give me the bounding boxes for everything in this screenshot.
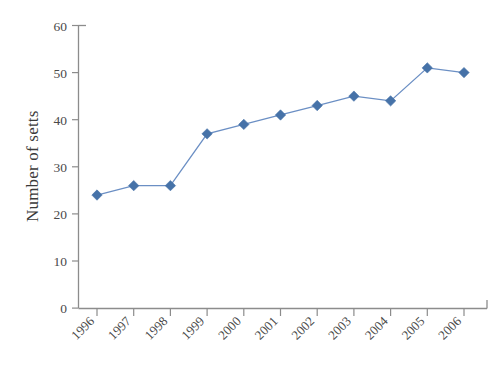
y-tick-label-30: 30 [54, 160, 68, 175]
y-tick-label-0: 0 [60, 301, 67, 316]
chart-figure: Number of setts 60 50 40 30 20 10 [0, 0, 501, 369]
chart-background [0, 0, 501, 369]
y-axis-title-text: Number of setts [23, 110, 42, 222]
y-tick-label-10: 10 [54, 254, 68, 269]
y-axis-title: Number of setts [23, 110, 42, 222]
y-tick-label-60: 60 [54, 19, 68, 34]
line-chart-canvas: Number of setts 60 50 40 30 20 10 [0, 0, 501, 369]
y-tick-label-40: 40 [54, 113, 68, 128]
y-tick-label-50: 50 [54, 66, 68, 81]
y-tick-label-20: 20 [54, 207, 68, 222]
